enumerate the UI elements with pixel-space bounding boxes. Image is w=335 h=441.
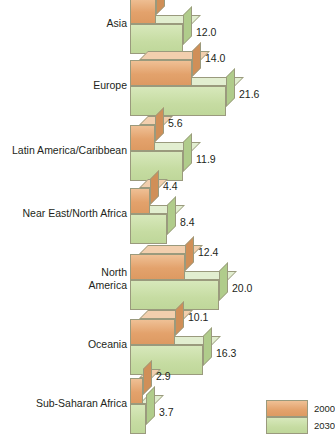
bar-front-face	[130, 60, 192, 86]
bar-2030	[130, 24, 183, 54]
legend-label-2000: 2000	[314, 404, 335, 414]
value-label-2030: 3.7	[159, 407, 174, 418]
value-label-2000: 4.4	[163, 181, 178, 192]
value-label-2000: 14.0	[205, 53, 225, 64]
bar-side-face	[167, 196, 176, 235]
bar-front-face	[130, 280, 219, 310]
bar-2030	[130, 404, 146, 434]
category-label: Latin America/Caribbean	[12, 144, 127, 157]
category-label: Asia	[107, 17, 127, 30]
bar-2000	[130, 378, 143, 404]
value-label-2030: 8.4	[180, 217, 195, 228]
bar-front-face	[130, 378, 143, 404]
legend-swatch-2030	[266, 417, 308, 434]
bar-2000	[130, 188, 150, 214]
value-label-2030: 12.0	[196, 27, 216, 38]
bar-front-face	[130, 125, 155, 151]
bar-2030	[130, 280, 219, 310]
bar-front-face	[130, 254, 185, 280]
bar-2000	[130, 0, 156, 24]
bar-2030	[130, 86, 226, 116]
bar-side-face	[203, 327, 212, 366]
bar-front-face	[130, 319, 175, 345]
value-label-2000: 10.1	[188, 312, 208, 323]
value-label-2030: 21.6	[239, 89, 259, 100]
bar-front-face	[130, 404, 146, 434]
category-label: Europe	[93, 79, 127, 92]
bar-side-face	[156, 0, 165, 15]
value-label-2000: 5.6	[168, 118, 183, 129]
bar-side-face	[185, 236, 194, 271]
value-label-2000: 5.9	[169, 0, 184, 2]
bar-side-face	[183, 133, 192, 172]
value-label-2030: 20.0	[232, 283, 252, 294]
bar-2000	[130, 319, 175, 345]
value-label-2030: 16.3	[216, 348, 236, 359]
bar-top-face	[139, 310, 193, 319]
bar-front-face	[130, 0, 156, 24]
legend-swatch-2000	[266, 400, 308, 417]
bar-2000	[130, 60, 192, 86]
category-label: Near East/North Africa	[23, 207, 127, 220]
bar-side-face	[192, 42, 201, 77]
value-label-2000: 2.9	[156, 371, 171, 382]
bar-2000	[130, 254, 185, 280]
category-label: Sub-Saharan Africa	[36, 397, 127, 410]
value-label-2000: 12.4	[198, 247, 218, 258]
category-label: North America	[88, 266, 127, 291]
bar-front-face	[130, 214, 167, 244]
bar-front-face	[130, 86, 226, 116]
value-label-2030: 11.9	[196, 154, 216, 165]
bar-2000	[130, 125, 155, 151]
bar-side-face	[219, 262, 228, 301]
bar-side-face	[146, 386, 155, 425]
category-label: Oceania	[88, 338, 127, 351]
bar-front-face	[130, 188, 150, 214]
bar-side-face	[183, 6, 192, 45]
bar-front-face	[130, 24, 183, 54]
legend-label-2030: 2030	[314, 421, 335, 431]
bar-2030	[130, 214, 167, 244]
bar-side-face	[226, 68, 235, 107]
